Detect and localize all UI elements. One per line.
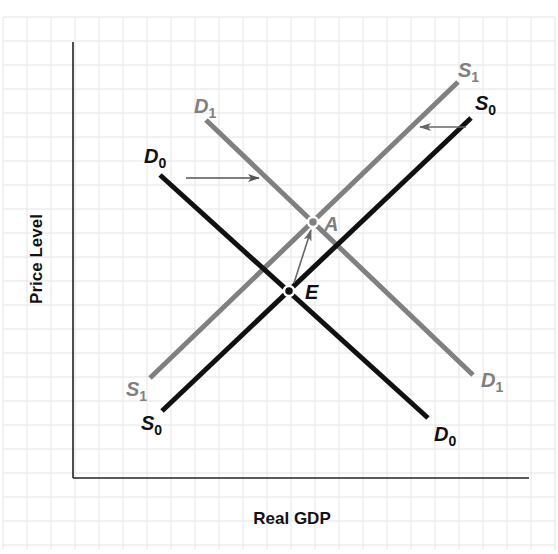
label-S1-bottom: S1 bbox=[126, 378, 147, 404]
svg-text:D1: D1 bbox=[481, 369, 503, 395]
svg-text:S1: S1 bbox=[458, 59, 479, 85]
point-A-marker bbox=[308, 217, 318, 227]
label-S1-top: S1 bbox=[458, 59, 479, 85]
svg-text:D1: D1 bbox=[194, 95, 216, 121]
label-S0-top: S0 bbox=[475, 92, 496, 118]
curve-S1 bbox=[150, 82, 458, 378]
svg-text:S0: S0 bbox=[475, 92, 496, 118]
svg-text:D0: D0 bbox=[434, 423, 456, 449]
label-D1-bottom: D1 bbox=[481, 369, 503, 395]
point-E-marker bbox=[284, 286, 294, 296]
y-axis-label: Price Level bbox=[27, 214, 46, 304]
point-E-label: E bbox=[305, 281, 319, 303]
ad-as-diagram: Price Level Real GDP A E D1 D0 S1 S0 S1 … bbox=[0, 0, 558, 554]
svg-text:S1: S1 bbox=[126, 378, 147, 404]
label-D1-top: D1 bbox=[194, 95, 216, 121]
svg-text:S0: S0 bbox=[141, 412, 162, 438]
point-A-label: A bbox=[323, 213, 338, 235]
label-D0-bottom: D0 bbox=[434, 423, 456, 449]
curve-S0 bbox=[162, 118, 471, 411]
label-S0-bottom: S0 bbox=[141, 412, 162, 438]
x-axis-label: Real GDP bbox=[253, 509, 330, 528]
